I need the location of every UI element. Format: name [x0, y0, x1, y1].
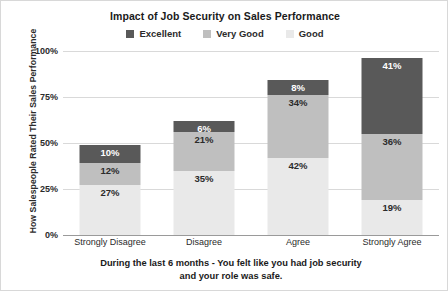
legend-swatch-icon	[286, 30, 294, 38]
bar-segment[interactable]: 12%	[80, 163, 141, 185]
y-axis-tick-label: 25%	[40, 184, 58, 194]
x-axis-tick-label: Strongly Disagree	[63, 237, 157, 247]
x-axis-tick-label: Disagree	[157, 237, 251, 247]
bar-value-label: 12%	[100, 163, 119, 176]
bar-segment[interactable]: 10%	[80, 145, 141, 163]
y-axis-tick-label: 0%	[45, 230, 58, 240]
bar-segment[interactable]: 34%	[268, 95, 329, 158]
legend-label: Very Good	[216, 29, 264, 39]
y-axis-title: How Salespeople Rated Their Sales Perfor…	[28, 26, 38, 236]
legend-swatch-icon	[126, 30, 134, 38]
bar-group: 19%36%41%	[345, 51, 439, 235]
bar-segment[interactable]: 42%	[268, 158, 329, 235]
bar-stack[interactable]: 19%36%41%	[362, 58, 423, 235]
legend-item-very-good[interactable]: Very Good	[203, 29, 264, 39]
x-axis-title-line-2: and your role was safe.	[31, 270, 431, 283]
y-axis-tick-label: 75%	[40, 92, 58, 102]
chart-legend: Excellent Very Good Good	[1, 29, 448, 39]
bar-segment[interactable]: 41%	[362, 58, 423, 133]
bar-segment[interactable]: 27%	[80, 185, 141, 235]
x-axis-tick-label: Agree	[251, 237, 345, 247]
bar-value-label: 42%	[288, 158, 307, 171]
bar-group: 35%21%6%	[157, 51, 251, 235]
legend-item-excellent[interactable]: Excellent	[126, 29, 181, 39]
bar-stack[interactable]: 27%12%10%	[80, 145, 141, 235]
bar-value-label: 10%	[100, 145, 119, 158]
bar-stack[interactable]: 42%34%8%	[268, 80, 329, 235]
bar-segment[interactable]: 36%	[362, 134, 423, 200]
bar-series: 27%12%10%35%21%6%42%34%8%19%36%41%	[63, 51, 439, 235]
bar-stack[interactable]: 35%21%6%	[174, 121, 235, 235]
legend-label: Good	[299, 29, 324, 39]
bar-value-label: 27%	[100, 185, 119, 198]
bar-value-label: 34%	[288, 95, 307, 108]
bar-segment[interactable]: 19%	[362, 200, 423, 235]
bar-segment[interactable]: 8%	[268, 80, 329, 95]
chart-container: Impact of Job Security on Sales Performa…	[0, 0, 448, 291]
plot-area: 0%25%50%75%100% 27%12%10%35%21%6%42%34%8…	[63, 51, 439, 235]
bar-value-label: 35%	[194, 171, 213, 184]
y-axis-tick-label: 50%	[40, 138, 58, 148]
bar-segment[interactable]: 6%	[174, 121, 235, 132]
x-axis-tick-labels: Strongly DisagreeDisagreeAgreeStrongly A…	[63, 237, 439, 247]
bar-segment[interactable]: 21%	[174, 132, 235, 171]
legend-item-good[interactable]: Good	[286, 29, 324, 39]
x-axis-title: During the last 6 months - You felt like…	[31, 257, 431, 282]
bar-value-label: 41%	[382, 58, 401, 71]
x-axis-title-line-1: During the last 6 months - You felt like…	[31, 257, 431, 270]
bar-value-label: 19%	[382, 200, 401, 213]
x-axis-tick-label: Strongly Agree	[345, 237, 439, 247]
legend-swatch-icon	[203, 30, 211, 38]
legend-label: Excellent	[139, 29, 181, 39]
bar-value-label: 6%	[197, 121, 211, 134]
bar-segment[interactable]: 35%	[174, 171, 235, 235]
bar-group: 42%34%8%	[251, 51, 345, 235]
x-axis-line	[63, 235, 439, 236]
y-axis-tick-label: 100%	[35, 46, 58, 56]
bar-value-label: 36%	[382, 134, 401, 147]
chart-title: Impact of Job Security on Sales Performa…	[1, 10, 448, 22]
bar-group: 27%12%10%	[63, 51, 157, 235]
bar-value-label: 8%	[291, 80, 305, 93]
